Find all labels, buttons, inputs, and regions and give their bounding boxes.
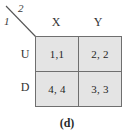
row-header-u: U [18,48,32,60]
row-player-label: 1 [4,16,10,27]
cell-d-y: 3, 3 [79,72,122,107]
row-header-d: D [18,81,32,93]
column-player-label: 2 [18,3,24,14]
cell-u-x: 1,1 [36,37,79,72]
payoff-matrix-table: 1,1 2, 2 4, 4 3, 3 [35,36,122,107]
table-row: 1,1 2, 2 [36,37,122,72]
cell-u-y: 2, 2 [79,37,122,72]
cell-d-x: 4, 4 [36,72,79,107]
column-header-x: X [35,16,77,28]
table-row: 4, 4 3, 3 [36,72,122,107]
column-header-y: Y [77,16,119,28]
figure-caption: (d) [0,116,134,131]
payoff-matrix-figure: 1 2 X Y U D 1,1 2, 2 4, 4 3, 3 (d) [0,0,134,137]
